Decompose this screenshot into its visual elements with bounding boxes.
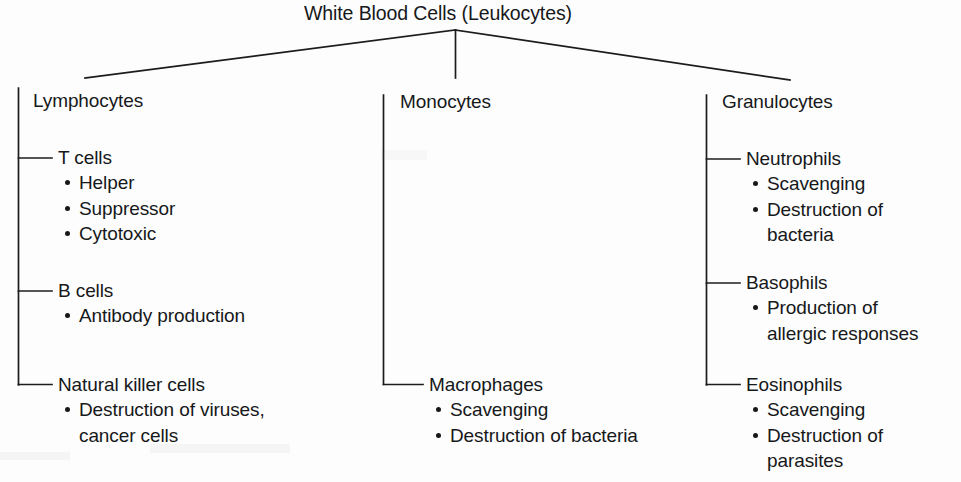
bullet-dot-icon [753,407,758,412]
bullet-text: Destruction of viruses, [79,399,265,420]
list-item: Production of allergic responses [752,295,918,346]
bullet-text-wrap: cancer cells [79,423,265,449]
bullet-text: Scavenging [767,399,865,420]
child-label-basophils[interactable]: Basophils [746,273,827,293]
branch-label-granulocytes[interactable]: Granulocytes [722,92,833,112]
child-label-macrophages[interactable]: Macrophages [429,375,543,395]
child-label-t-cells[interactable]: T cells [58,148,112,168]
bullet-text: Suppressor [79,198,175,219]
child-label-eosinophils[interactable]: Eosinophils [746,375,842,395]
child-label-b-cells[interactable]: B cells [58,281,113,301]
bullet-text: Destruction of [767,425,883,446]
bullet-dot-icon [65,407,70,412]
list-item: Scavenging [752,397,883,423]
list-item: Destruction of parasites [752,423,883,474]
bullet-text: Destruction of [767,199,883,220]
bullet-text-wrap: parasites [767,448,883,474]
bullet-list-eosinophils: Scavenging Destruction of parasites [752,397,883,474]
bullet-dot-icon [65,180,70,185]
bullet-dot-icon [753,207,758,212]
bullet-text: Scavenging [450,399,548,420]
bullet-dot-icon [65,231,70,236]
list-item: Antibody production [64,303,245,329]
bullet-dot-icon [436,407,441,412]
bullet-dot-icon [753,433,758,438]
list-item: Cytotoxic [64,221,175,247]
bullet-list-basophils: Production of allergic responses [752,295,918,346]
bullet-dot-icon [65,313,70,318]
bullet-dot-icon [753,181,758,186]
bullet-list-neutrophils: Scavenging Destruction of bacteria [752,171,883,248]
list-item: Destruction of viruses, cancer cells [64,397,265,448]
bullet-list-t-cells: Helper Suppressor Cytotoxic [64,170,175,247]
bullet-text: Destruction of bacteria [450,425,638,446]
bullet-text: Antibody production [79,305,245,326]
child-label-natural-killer-cells[interactable]: Natural killer cells [58,375,205,395]
bullet-text-wrap: bacteria [767,222,883,248]
diagram-canvas: White Blood Cells (Leukocytes) Lymphocyt… [0,0,961,482]
child-label-neutrophils[interactable]: Neutrophils [746,149,841,169]
list-item: Destruction of bacteria [752,197,883,248]
bullet-text: Scavenging [767,173,865,194]
bullet-list-macrophages: Scavenging Destruction of bacteria [435,397,638,448]
bullet-list-b-cells: Antibody production [64,303,245,329]
bullet-dot-icon [65,206,70,211]
bullet-text-wrap: allergic responses [767,321,918,347]
bullet-dot-icon [753,305,758,310]
bullet-text: Helper [79,172,134,193]
branch-label-monocytes[interactable]: Monocytes [400,92,491,112]
connector-root-to-lymphocytes [85,30,456,78]
bullet-text: Cytotoxic [79,223,156,244]
branch-label-lymphocytes[interactable]: Lymphocytes [33,91,143,111]
list-item: Destruction of bacteria [435,423,638,449]
bullet-text: Production of [767,297,878,318]
list-item: Scavenging [752,171,883,197]
list-item: Helper [64,170,175,196]
diagram-title: White Blood Cells (Leukocytes) [304,3,572,23]
bullet-list-natural-killer-cells: Destruction of viruses, cancer cells [64,397,265,448]
list-item: Suppressor [64,196,175,222]
list-item: Scavenging [435,397,638,423]
connector-root-to-granulocytes [456,30,791,80]
bullet-dot-icon [436,433,441,438]
